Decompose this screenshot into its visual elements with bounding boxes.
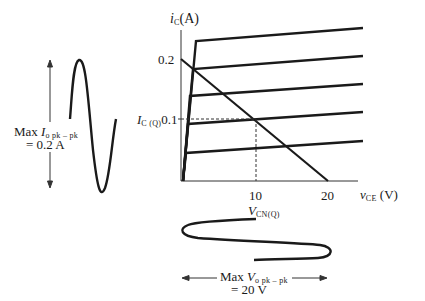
y-tick-0.2-label: 0.2 (158, 53, 174, 66)
icq-sub: C (Q) (141, 119, 161, 128)
vcnq-label: VCN(Q) (248, 204, 280, 217)
y-axis-sub: C (174, 18, 180, 27)
vcnq-sub: CN(Q) (256, 210, 280, 219)
vcnq-var: V (248, 203, 256, 218)
curve-3 (183, 84, 363, 181)
x-tick-10-label: 10 (249, 189, 262, 202)
collector-curves (183, 28, 363, 181)
max-current-value: = 0.2 A (26, 138, 65, 151)
y-axis-label: iC(A) (170, 12, 199, 26)
voltage-swing-waveform (182, 219, 330, 260)
x-tick-20-label: 20 (321, 189, 334, 202)
ac-load-line (181, 59, 328, 181)
max-voltage-value: = 20 V (231, 283, 267, 296)
x-axis-unit: (V) (380, 187, 398, 202)
y-axis-unit: (A) (180, 11, 199, 26)
curve-5 (183, 28, 363, 181)
x-axis-label: vCE (V) (360, 188, 398, 201)
x-axis-var: v (360, 187, 366, 202)
curve-1 (183, 141, 363, 181)
x-axis-sub: CE (366, 194, 377, 203)
y-tick-0.1-label: 0.1 (161, 112, 177, 127)
current-swing-arrow (48, 60, 53, 188)
icq-label: IC (Q)0.1 (137, 113, 178, 126)
